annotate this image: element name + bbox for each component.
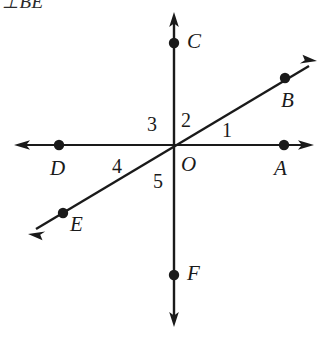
point-label-C: C (187, 31, 201, 52)
point-label-D: D (50, 158, 65, 179)
arrowhead-upper-right-icon (300, 55, 317, 64)
point-dot-D (54, 140, 64, 150)
point-dot-F (169, 270, 179, 280)
point-dot-A (279, 140, 289, 150)
angle-label-1: 1 (222, 120, 232, 140)
angle-label-4: 4 (112, 156, 122, 176)
diagonal-line-segment (36, 66, 309, 229)
point-dot-C (169, 38, 179, 48)
point-label-F: F (187, 263, 200, 284)
point-label-E: E (70, 214, 83, 235)
point-dot-E (58, 208, 68, 218)
point-dot-B (280, 73, 290, 83)
angle-label-2: 2 (181, 110, 191, 130)
point-label-A: A (274, 158, 287, 179)
angle-label-3: 3 (147, 114, 157, 134)
point-label-O: O (181, 154, 196, 175)
angle-label-5: 5 (153, 171, 163, 191)
geometry-figure: ⊥BE A B C D E F O 1 (0, 0, 328, 337)
point-label-B: B (281, 90, 294, 111)
arrowhead-lower-left-icon (28, 231, 45, 240)
